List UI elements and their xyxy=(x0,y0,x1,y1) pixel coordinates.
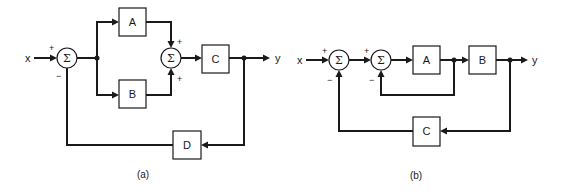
sign-minus: − xyxy=(56,71,61,81)
sigma-symbol: Σ xyxy=(335,54,343,67)
output-label-y: y xyxy=(275,52,281,64)
arrow-icon xyxy=(322,57,329,64)
arrow-icon xyxy=(263,55,270,62)
arrow-icon xyxy=(378,70,385,77)
block-d-label: D xyxy=(183,139,191,151)
sign-minus: − xyxy=(369,75,374,85)
sign-plus: + xyxy=(364,46,369,56)
output-label-y: y xyxy=(532,54,538,66)
arrow-icon xyxy=(440,128,447,135)
arrow-icon xyxy=(336,70,343,77)
arrow-icon xyxy=(112,92,119,99)
arrow-icon xyxy=(406,57,413,64)
arrow-icon xyxy=(201,142,208,149)
input-label-x: x xyxy=(25,52,31,64)
arrow-icon xyxy=(364,57,371,64)
sign-plus: + xyxy=(49,43,54,53)
block-diagrams: x Σ + − A B Σ + + C y D xyxy=(0,0,565,194)
sigma-symbol: Σ xyxy=(377,54,385,67)
block-a-label: A xyxy=(129,16,137,28)
sign-plus: + xyxy=(177,37,182,47)
diagram-a: x Σ + − A B Σ + + C y D xyxy=(25,8,281,180)
sigma-symbol: Σ xyxy=(63,52,71,65)
block-b-label: B xyxy=(129,88,136,100)
sign-minus: − xyxy=(327,75,332,85)
caption-a: (a) xyxy=(137,169,149,180)
arrow-icon xyxy=(521,57,528,64)
block-b-label: B xyxy=(479,54,486,66)
sigma-symbol: Σ xyxy=(167,52,175,65)
arrow-icon xyxy=(168,68,175,75)
block-a-label: A xyxy=(423,54,431,66)
arrow-icon xyxy=(112,19,119,26)
arrow-icon xyxy=(168,41,175,48)
sign-plus: + xyxy=(177,74,182,84)
sign-plus: + xyxy=(322,46,327,56)
diagram-b: x Σ + − Σ + − A B y C xyxy=(297,46,538,181)
block-c-label: C xyxy=(423,125,431,137)
input-label-x: x xyxy=(297,54,303,66)
arrow-icon xyxy=(195,55,202,62)
block-c-label: C xyxy=(212,53,220,65)
arrow-icon xyxy=(462,57,469,64)
arrow-icon xyxy=(50,55,57,62)
caption-b: (b) xyxy=(410,170,422,181)
